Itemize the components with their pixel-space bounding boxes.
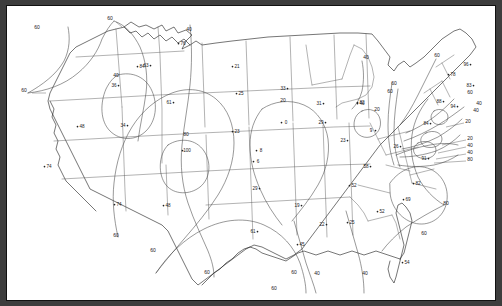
station-dot — [377, 211, 379, 213]
contour-fan-d — [400, 135, 460, 157]
station-dot — [178, 43, 180, 45]
station-value-label: 61 — [250, 229, 256, 234]
station-dot — [256, 150, 258, 152]
station-value-label: 58 — [363, 164, 369, 169]
contour-label: 60 — [150, 247, 156, 253]
contour-label: 40 — [473, 107, 479, 113]
contour-label: 40 — [467, 149, 473, 155]
station-dot — [259, 188, 261, 190]
contour-60-greatbasin — [113, 90, 234, 273]
station-point: 26 — [393, 144, 401, 149]
station-dot — [448, 74, 450, 76]
station-dot — [325, 122, 327, 124]
station-point: 91 — [421, 156, 429, 161]
station-point: 94 — [450, 104, 458, 109]
station-point: 36 — [111, 83, 119, 88]
station-value-label: 36 — [111, 83, 117, 88]
station-point: 48 — [77, 124, 85, 129]
station-dot — [375, 130, 377, 132]
station-value-label: 94 — [450, 104, 456, 109]
contour-60-north — [114, 21, 147, 141]
station-value-label: 74 — [116, 202, 122, 207]
station-dot — [403, 199, 405, 201]
station-value-label: 91 — [421, 156, 427, 161]
station-point: 31 — [316, 101, 324, 106]
station-dot — [232, 66, 234, 68]
station-dot — [114, 204, 116, 206]
label-leader-lines — [32, 22, 466, 163]
contour-label: 60 — [34, 24, 40, 30]
contour-60-texas — [156, 220, 306, 293]
coastline-detail — [50, 27, 412, 285]
station-value-label: 83 — [466, 83, 472, 88]
station-value-label: 26 — [393, 144, 399, 149]
station-point: 25 — [236, 91, 244, 96]
contour-label: 40 — [113, 72, 119, 78]
station-dot — [257, 231, 259, 233]
station-point: 34 — [120, 123, 128, 128]
station-value-label: 74 — [46, 164, 52, 169]
station-point: 61 — [166, 100, 174, 105]
contour-40-idaho-loop — [102, 74, 155, 139]
station-dot — [287, 88, 289, 90]
station-value-label: 48 — [165, 203, 171, 208]
station-point: 22 — [319, 222, 327, 227]
station-value-label: 52 — [351, 183, 357, 188]
station-dot — [163, 205, 165, 207]
station-dot — [430, 123, 432, 125]
station-value-label: 52 — [379, 209, 385, 214]
contour-label: 60 — [21, 87, 27, 93]
station-value-label: 0 — [285, 120, 288, 125]
contour-label: 40 — [362, 270, 368, 276]
contour-label: 40 — [186, 26, 192, 32]
station-value-label: 45 — [299, 242, 305, 247]
station-dot — [349, 185, 351, 187]
contour-fan-f — [396, 144, 458, 156]
station-value-label: 19 — [294, 203, 300, 208]
contour-label: 60 — [421, 230, 427, 236]
station-point: 83 — [466, 83, 474, 88]
station-dot — [323, 103, 325, 105]
station-point: 21 — [232, 64, 240, 69]
station-point: 48 — [163, 203, 171, 208]
contour-label: 60 — [291, 269, 297, 275]
contour-80-southeast-lower — [382, 205, 444, 251]
contour-label: 40 — [476, 100, 482, 106]
station-dot — [150, 65, 152, 67]
station-value-label: 61 — [166, 100, 172, 105]
station-dot — [77, 126, 79, 128]
station-value-label: 100 — [183, 148, 191, 153]
station-point: 19 — [294, 203, 302, 208]
station-dot — [236, 93, 238, 95]
contour-60-appalachian — [388, 83, 394, 165]
contour-label: 20 — [374, 106, 380, 112]
station-value-label: 48 — [79, 124, 85, 129]
contour-label: 20 — [465, 118, 471, 124]
contour-label: 40 — [467, 142, 473, 148]
contour-label: 80 — [183, 131, 189, 137]
station-dot — [370, 166, 372, 168]
station-dot — [428, 158, 430, 160]
station-point: 45 — [297, 242, 305, 247]
station-point: 6 — [253, 159, 260, 164]
map-plot-area: 7684366321612533314048342302923910086268… — [6, 5, 496, 301]
contour-80-carolina — [390, 167, 447, 224]
contour-map-figure: 7684366321612533314048342302923910086268… — [0, 0, 502, 306]
station-value-label: 9 — [370, 128, 373, 133]
contour-20-michigan — [354, 109, 381, 137]
station-value-label: 82 — [359, 100, 365, 105]
station-point: 69 — [403, 197, 411, 202]
station-point: 52 — [377, 209, 385, 214]
station-value-label: 8 — [260, 148, 263, 153]
station-point: 82 — [413, 181, 421, 186]
contour-20-central-lower — [250, 109, 282, 225]
station-value-label: 25 — [238, 91, 244, 96]
station-dot — [457, 106, 459, 108]
station-dot — [400, 146, 402, 148]
station-point: 54 — [402, 260, 410, 265]
station-point: 58 — [363, 164, 371, 169]
contour-label: 40 — [363, 54, 369, 60]
contour-lines — [28, 21, 464, 293]
contour-label: 60 — [387, 88, 393, 94]
station-dot — [443, 101, 445, 103]
